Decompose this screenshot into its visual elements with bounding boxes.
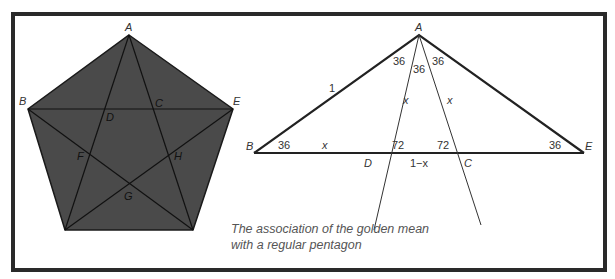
label-pent-E: E [233, 95, 241, 107]
label-seg-DC: 1−x [410, 157, 429, 169]
golden-triangle-diagram: A B E D C 1 36 36 36 36 36 72 72 x x x 1… [246, 21, 593, 230]
caption-line-1: The association of the golden mean [231, 221, 429, 237]
label-seg-AC: x [446, 94, 453, 106]
label-angle-B: 36 [278, 139, 290, 151]
label-pent-G: G [124, 190, 133, 202]
label-pent-A: A [124, 21, 132, 33]
label-tri-A: A [414, 21, 422, 33]
label-pent-D: D [106, 111, 114, 123]
line-AC-extended [419, 35, 481, 225]
label-pent-B: B [19, 95, 26, 107]
label-angle-E: 36 [549, 139, 561, 151]
label-angle-A-right: 36 [432, 55, 444, 67]
label-tri-E: E [585, 140, 593, 152]
label-angle-A-left: 36 [393, 55, 405, 67]
label-angle-D: 72 [392, 139, 404, 151]
label-tri-B: B [246, 140, 253, 152]
caption-line-2: with a regular pentagon [231, 237, 429, 253]
label-pent-H: H [174, 150, 182, 162]
label-seg-BD: x [321, 139, 328, 151]
label-angle-A-mid: 36 [413, 63, 425, 75]
pentagon-diagram: A B E C D F H G [19, 21, 241, 230]
label-tri-C: C [464, 157, 472, 169]
label-seg-AD: x [402, 94, 409, 106]
label-tri-D: D [364, 157, 372, 169]
label-side-AB: 1 [329, 82, 335, 94]
label-angle-C: 72 [437, 139, 449, 151]
figure-caption: The association of the golden mean with … [231, 221, 429, 253]
triangle-outline [254, 35, 584, 153]
label-pent-C: C [155, 97, 163, 109]
